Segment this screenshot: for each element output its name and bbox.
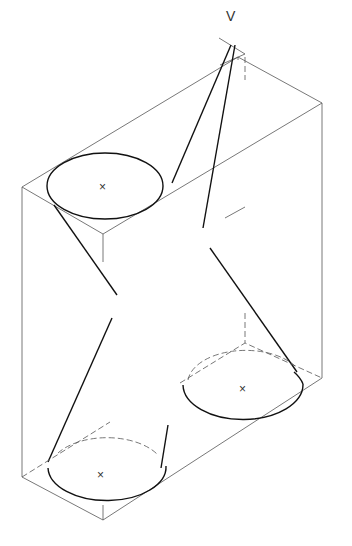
center-mark-icon: ×	[97, 468, 104, 482]
generator-lines	[48, 45, 297, 468]
drawing-canvas: V × × ×	[0, 0, 352, 546]
center-mark-icon: ×	[239, 382, 246, 396]
box-outline	[22, 54, 322, 520]
top-left-ellipse: ×	[47, 153, 163, 219]
vertex-axis	[219, 38, 245, 54]
vertex-label: V	[226, 8, 236, 24]
center-mark-icon: ×	[99, 180, 106, 194]
bottom-right-ellipse: ×	[180, 313, 322, 420]
